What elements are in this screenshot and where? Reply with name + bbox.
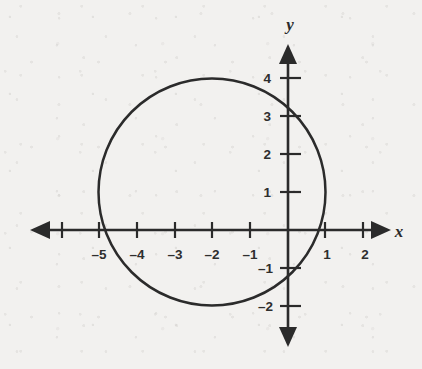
- y-tick-marks-group: [280, 78, 301, 306]
- x-axis-right-arrow-icon: [371, 221, 391, 239]
- x-tick-label-minus5: –5: [91, 247, 107, 262]
- x-tick-label-minus1: –1: [242, 247, 258, 262]
- x-axis-label: x: [394, 222, 404, 241]
- x-tick-label-minus3: –3: [167, 247, 183, 262]
- y-axis-up-arrow-icon: [279, 44, 297, 64]
- coordinate-plane-plot: x y –5 –4 –3 –2 –1 1 2 4 3 2 1 –1 –2: [0, 0, 422, 369]
- x-tick-label-plus1: 1: [323, 247, 331, 262]
- x-tick-label-plus2: 2: [361, 247, 369, 262]
- axes-group: [30, 44, 391, 347]
- y-axis-down-arrow-icon: [279, 327, 297, 347]
- x-tick-label-minus4: –4: [129, 247, 145, 262]
- y-tick-label-2: 2: [263, 147, 271, 162]
- y-tick-label-3: 3: [263, 109, 271, 124]
- x-tick-label-minus2: –2: [204, 247, 219, 262]
- circle-graph-figure: x y –5 –4 –3 –2 –1 1 2 4 3 2 1 –1 –2: [0, 0, 422, 369]
- y-tick-label-4: 4: [263, 71, 271, 86]
- y-axis-label: y: [284, 15, 294, 34]
- y-tick-label-minus2: –2: [258, 299, 273, 314]
- x-axis-left-arrow-icon: [30, 221, 50, 239]
- y-tick-label-minus1: –1: [258, 261, 274, 276]
- y-tick-label-1: 1: [263, 185, 271, 200]
